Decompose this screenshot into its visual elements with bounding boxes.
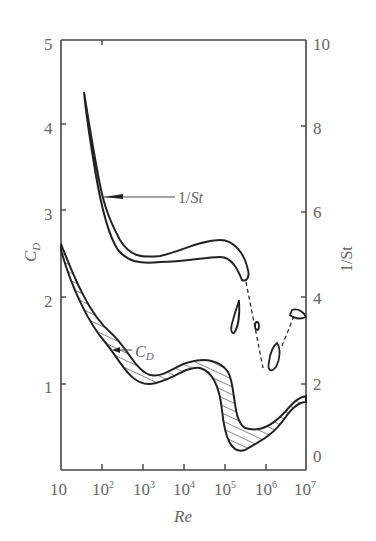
svg-text:6: 6 (313, 203, 322, 222)
x-tick-labels: 10 102 103 104 105 106 107 (50, 479, 316, 499)
svg-text:10: 10 (50, 480, 67, 499)
svg-text:CD: CD (135, 343, 154, 362)
plot-frame (61, 40, 306, 470)
svg-text:105: 105 (214, 479, 236, 499)
svg-text:4: 4 (44, 119, 53, 138)
svg-text:1: 1 (44, 378, 53, 397)
svg-text:0: 0 (313, 447, 322, 466)
inverse-strouhal-islands (231, 300, 306, 370)
svg-text:5: 5 (44, 35, 53, 54)
svg-text:8: 8 (313, 119, 322, 138)
x-axis-label: Re (173, 507, 192, 526)
svg-text:107: 107 (294, 479, 316, 499)
svg-text:104: 104 (173, 479, 195, 499)
svg-text:102: 102 (92, 479, 114, 499)
svg-text:106: 106 (255, 479, 277, 499)
svg-text:4: 4 (313, 289, 322, 308)
y-right-axis-label: 1/St (338, 246, 355, 272)
inverse-strouhal-band (84, 92, 249, 281)
svg-text:103: 103 (133, 479, 155, 499)
y-left-tick-labels: 5 4 3 2 1 (44, 35, 53, 397)
cd-band (61, 244, 306, 451)
y-left-axis-label: CD (21, 243, 42, 262)
svg-text:3: 3 (44, 205, 53, 224)
annotation-inverse-strouhal: 1/St (104, 189, 203, 206)
svg-text:2: 2 (313, 375, 322, 394)
svg-text:1/St: 1/St (178, 189, 203, 206)
svg-text:2: 2 (44, 292, 53, 311)
svg-text:10: 10 (313, 35, 330, 54)
drag-strouhal-chart: 10 102 103 104 105 106 107 Re 5 4 3 2 1 … (0, 0, 376, 541)
y-right-tick-labels: 10 8 6 4 2 0 (313, 35, 330, 466)
